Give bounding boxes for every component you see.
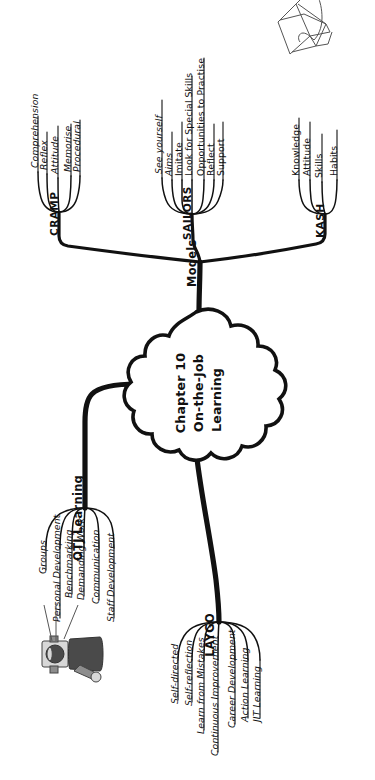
item-label-laygo-0[interactable]: Self-directed — [169, 644, 180, 704]
item-label-cramp-2[interactable]: Attitude — [49, 136, 60, 175]
item-label-kash-0[interactable]: Knowledge — [290, 124, 301, 176]
item-label-otj-3[interactable]: Demanding Work — [75, 517, 86, 600]
item-label-kash-1[interactable]: Attitude — [301, 138, 312, 176]
item-label-laygo-5[interactable]: Action Learning — [239, 648, 250, 723]
group-label-sailors[interactable]: SAILORS — [181, 186, 193, 240]
spine-models — [59, 212, 200, 262]
spine-models-right — [200, 214, 325, 262]
item-label-otj-5[interactable]: Staff Development — [105, 533, 116, 622]
item-label-laygo-6[interactable]: JIT Learning — [251, 666, 262, 724]
item-label-cramp-1[interactable]: Reflex — [38, 140, 49, 170]
item-label-laygo-2[interactable]: Learn from Mistakes — [195, 637, 206, 734]
item-label-sailors-6[interactable]: Support — [215, 138, 226, 176]
group-label-cramp[interactable]: CRAMP — [48, 192, 60, 236]
item-label-otj-0[interactable]: Groups — [37, 540, 48, 574]
branch-label-models[interactable]: Models — [185, 239, 199, 287]
trunk-laygo — [196, 450, 219, 622]
item-label-kash-2[interactable]: Skills — [313, 153, 324, 178]
trunk-models — [199, 262, 200, 312]
item-label-sailors-3[interactable]: Look for Special Skills — [183, 73, 194, 176]
item-label-laygo-1[interactable]: Self-reflection — [183, 640, 194, 706]
item-label-laygo-3[interactable]: Continuous Improvement — [209, 635, 220, 756]
item-label-laygo-4[interactable]: Career Development — [226, 629, 237, 728]
item-label-otj-4[interactable]: Communication — [90, 529, 101, 604]
core-line-2: On-the-Job — [191, 354, 206, 432]
item-label-cramp-4[interactable]: Procedural — [71, 121, 82, 172]
core-line-3: Learning — [209, 368, 224, 432]
mind-map-canvas: Chapter 10 On-the-Job Learning Models OT… — [0, 0, 375, 780]
group-label-kash[interactable]: KASH — [314, 203, 326, 238]
item-label-otj-2[interactable]: Benchmarking — [63, 529, 74, 598]
graduation-cap-book-icon — [278, 0, 332, 54]
core-line-1: Chapter 10 — [173, 353, 188, 433]
item-label-kash-3[interactable]: Habits — [328, 146, 339, 176]
